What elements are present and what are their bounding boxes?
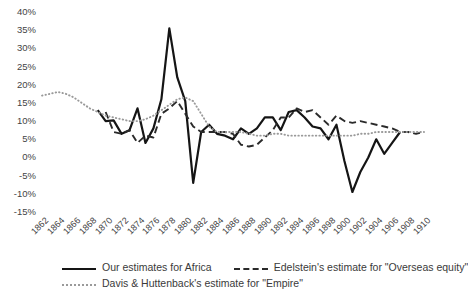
chart-legend: Our estimates for Africa Edelstein's est… — [0, 259, 432, 291]
legend-label: Edelstein's estimate for "Overseas equit… — [274, 261, 468, 273]
y-tick-label: 15% — [0, 98, 36, 108]
y-tick-label: -15% — [0, 207, 36, 217]
y-tick-label: 0% — [0, 152, 36, 162]
legend-label: Davis & Huttenback's estimate for "Empir… — [102, 277, 303, 289]
y-tick-label: 20% — [0, 80, 36, 90]
legend-dashed-line-icon — [234, 268, 268, 270]
y-tick-label: 25% — [0, 62, 36, 72]
legend-item-edelsteins-estimate[interactable]: Edelstein's estimate for "Overseas equit… — [234, 261, 468, 273]
y-tick-label: 5% — [0, 134, 36, 144]
y-tick-label: -10% — [0, 189, 36, 199]
legend-dotted-line-icon — [62, 284, 96, 286]
legend-solid-line-icon — [62, 268, 96, 270]
y-tick-label: 40% — [0, 7, 36, 17]
y-tick-label: 35% — [0, 25, 36, 35]
legend-item-our-estimates-for-africa[interactable]: Our estimates for Africa — [62, 261, 212, 273]
y-tick-label: 30% — [0, 43, 36, 53]
y-tick-label: -5% — [0, 171, 36, 181]
y-tick-label: 10% — [0, 116, 36, 126]
legend-label: Our estimates for Africa — [102, 261, 212, 273]
legend-item-davis-huttenback-estimate[interactable]: Davis & Huttenback's estimate for "Empir… — [62, 277, 303, 289]
series-line — [98, 28, 400, 192]
